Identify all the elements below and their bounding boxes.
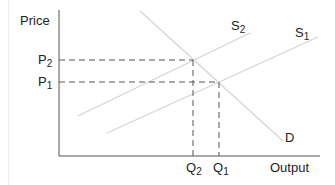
label-base: P (38, 74, 47, 89)
label-sub: 2 (196, 166, 202, 177)
price-label-p2: P2 (38, 53, 52, 69)
label-sub: 1 (47, 80, 53, 91)
quantity-label-q1: Q1 (213, 161, 229, 177)
label-sub: 1 (223, 166, 229, 177)
label-sub: 2 (240, 24, 246, 35)
label-base: Q (186, 160, 196, 175)
label-base: S (295, 25, 304, 40)
demand-label: D (285, 131, 294, 144)
y-axis-label: Price (20, 14, 50, 27)
label-sub: 1 (304, 31, 310, 42)
label-base: P (38, 52, 47, 67)
label-base: Q (213, 160, 223, 175)
label-base: S (231, 18, 240, 33)
supply-label-s2: S2 (231, 19, 245, 35)
supply-demand-diagram (0, 0, 335, 185)
label-sub: 2 (47, 58, 53, 69)
supply-curve-s2 (78, 33, 250, 116)
price-label-p1: P1 (38, 75, 52, 91)
supply-label-s1: S1 (295, 26, 309, 42)
quantity-label-q2: Q2 (186, 161, 202, 177)
x-axis-label: Output (270, 161, 309, 174)
